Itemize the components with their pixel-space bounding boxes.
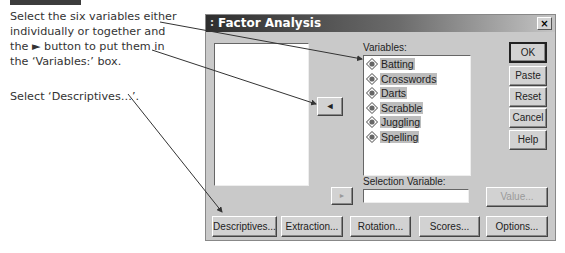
callout-to-move-button bbox=[152, 50, 316, 104]
callout-to-descriptives bbox=[128, 94, 222, 212]
callout-to-variables bbox=[160, 22, 362, 59]
callout-lines bbox=[0, 0, 565, 253]
